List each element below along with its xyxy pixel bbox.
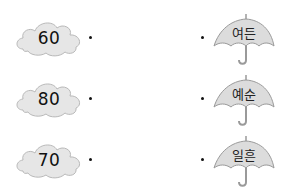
match-dot-left[interactable] bbox=[89, 36, 92, 39]
matching-row-1: 60 여든 bbox=[0, 17, 287, 77]
matching-row-2: 80 예순 bbox=[0, 78, 287, 138]
korean-number-word: 일흔 bbox=[217, 145, 271, 164]
korean-number-word: 여든 bbox=[217, 23, 271, 42]
umbrella-card-2: 예순 bbox=[211, 73, 275, 127]
korean-number-word: 예순 bbox=[217, 84, 271, 103]
matching-row-3: 70 일흔 bbox=[0, 139, 287, 193]
match-dot-left[interactable] bbox=[89, 158, 92, 161]
cloud-card-1: 60 bbox=[13, 17, 85, 57]
match-dot-right[interactable] bbox=[201, 36, 204, 39]
match-dot-left[interactable] bbox=[89, 97, 92, 100]
cloud-card-2: 80 bbox=[13, 78, 85, 118]
number-value: 80 bbox=[13, 78, 85, 118]
umbrella-card-1: 여든 bbox=[211, 12, 275, 66]
number-value: 60 bbox=[13, 17, 85, 57]
umbrella-card-3: 일흔 bbox=[211, 134, 275, 188]
match-dot-right[interactable] bbox=[201, 97, 204, 100]
match-dot-right[interactable] bbox=[201, 158, 204, 161]
number-value: 70 bbox=[13, 139, 85, 179]
cloud-card-3: 70 bbox=[13, 139, 85, 179]
